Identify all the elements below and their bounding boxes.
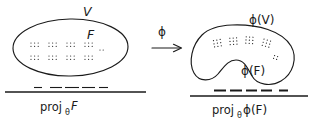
data-point — [236, 37, 237, 38]
map-phi-label: ϕ — [158, 25, 166, 39]
figure-root: V F proj θ F ϕ — [0, 0, 313, 122]
subset-f-label: F — [87, 27, 95, 42]
data-point — [252, 43, 253, 44]
point-cluster — [30, 55, 38, 60]
data-point — [74, 59, 75, 60]
data-point — [84, 55, 85, 56]
data-point — [99, 49, 100, 50]
data-point — [30, 59, 31, 60]
data-point — [252, 40, 253, 41]
data-point — [70, 55, 71, 56]
data-point — [267, 39, 269, 41]
data-point — [70, 59, 71, 60]
data-point — [236, 43, 237, 44]
projection-label-left-subscript: θ — [65, 108, 70, 117]
data-point — [52, 42, 53, 43]
data-point — [219, 39, 220, 40]
region-phi-v-label: ϕ(V) — [249, 13, 275, 27]
point-cluster — [213, 39, 222, 48]
point-cluster — [48, 42, 56, 47]
data-point — [56, 55, 57, 56]
data-point — [252, 37, 253, 38]
data-point — [52, 59, 53, 60]
point-cluster — [273, 55, 279, 61]
point-set-f — [30, 42, 103, 60]
data-point — [30, 46, 31, 47]
data-point — [92, 55, 93, 56]
projection-label-left-argument: F — [71, 99, 78, 113]
data-point — [217, 42, 218, 43]
data-point — [38, 55, 39, 56]
data-point — [52, 46, 53, 47]
data-point — [220, 42, 221, 43]
data-point — [34, 59, 35, 60]
right-panel: ϕ(V) ϕ(F) proj θ ϕ(F) — [190, 13, 308, 120]
data-point — [92, 46, 93, 47]
point-cluster — [229, 37, 238, 45]
data-point — [266, 42, 268, 44]
data-point — [66, 46, 67, 47]
point-cluster — [30, 42, 38, 47]
region-v-label: V — [83, 4, 93, 19]
data-point — [262, 41, 264, 43]
data-point — [30, 42, 31, 43]
point-cluster — [66, 42, 74, 47]
data-point — [48, 55, 49, 56]
projection-label-right: proj θ ϕ(F) — [212, 103, 267, 120]
data-point — [273, 58, 275, 60]
data-point — [221, 45, 222, 46]
data-point — [230, 44, 231, 45]
data-point — [88, 55, 89, 56]
data-point — [245, 39, 246, 40]
data-point — [92, 42, 93, 43]
data-point — [38, 46, 39, 47]
data-point — [84, 46, 85, 47]
projection-label-left-prefix: proj — [40, 100, 62, 114]
point-cluster — [66, 55, 74, 60]
diagram-canvas: V F proj θ F ϕ — [0, 0, 313, 122]
data-point — [34, 42, 35, 43]
data-point — [38, 59, 39, 60]
data-point — [56, 59, 57, 60]
point-set-phi-f — [213, 36, 279, 60]
data-point — [74, 42, 75, 43]
data-point — [263, 38, 265, 40]
point-cluster — [245, 36, 254, 44]
data-point — [268, 46, 270, 48]
projection-label-right-prefix: proj — [212, 103, 234, 117]
region-v-ellipse — [13, 18, 129, 77]
data-point — [233, 44, 234, 45]
subset-phi-f-label: ϕ(F) — [241, 64, 265, 78]
point-cluster — [84, 55, 92, 60]
data-point — [66, 42, 67, 43]
point-cluster — [84, 42, 92, 47]
data-point — [34, 55, 35, 56]
data-point — [92, 59, 93, 60]
data-point — [74, 55, 75, 56]
data-point — [245, 42, 246, 43]
projection-label-right-subscript: θ — [237, 111, 242, 120]
data-point — [30, 55, 31, 56]
data-point — [84, 59, 85, 60]
projection-label-right-argument: ϕ(F) — [243, 103, 267, 117]
data-point — [48, 59, 49, 60]
data-point — [56, 42, 57, 43]
data-point — [236, 40, 237, 41]
data-point — [217, 46, 218, 47]
data-point — [249, 36, 250, 37]
left-panel: V F proj θ F — [5, 4, 146, 117]
data-point — [70, 46, 71, 47]
data-point — [229, 41, 230, 42]
data-point — [216, 39, 217, 40]
data-point — [66, 59, 67, 60]
data-point — [213, 43, 214, 44]
data-point — [70, 42, 71, 43]
data-point — [249, 43, 250, 44]
data-point — [269, 43, 271, 45]
map-connector: ϕ — [152, 25, 182, 52]
data-point — [213, 40, 214, 41]
projection-label-left: proj θ F — [40, 99, 78, 117]
data-point — [88, 46, 89, 47]
data-point — [261, 45, 263, 47]
data-point — [88, 42, 89, 43]
